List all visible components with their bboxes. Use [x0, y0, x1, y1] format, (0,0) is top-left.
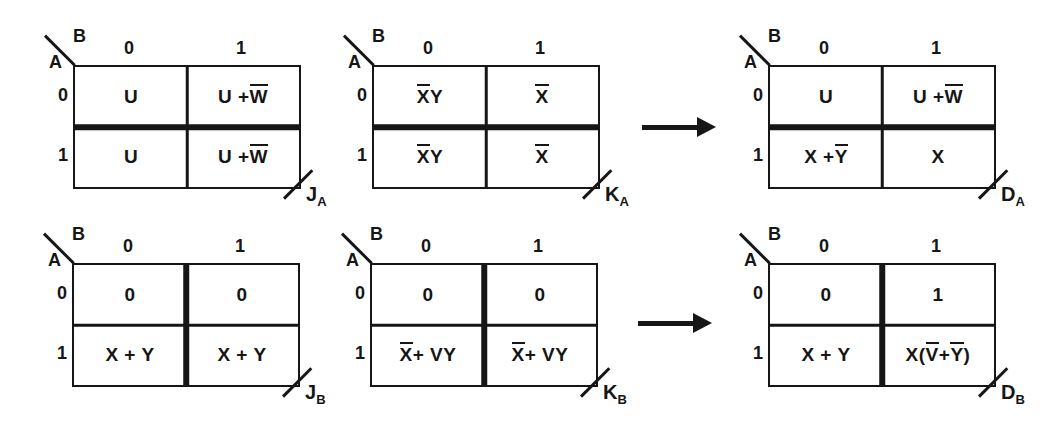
kmap-grid: U U + W U U + W	[73, 65, 301, 189]
row-label-0: 0	[344, 263, 365, 323]
output-subscript: B	[1015, 392, 1024, 407]
col-header-1: 1	[880, 236, 992, 257]
arrow-right-icon	[642, 117, 716, 137]
col-header-1: 1	[484, 38, 596, 59]
kmap-grid: XY X XY X	[372, 65, 600, 189]
row-label-1: 1	[346, 125, 367, 185]
row-label-1: 1	[46, 323, 67, 383]
column-headers: 0 1	[768, 236, 992, 257]
output-subscript: A	[619, 194, 628, 209]
row-label-1: 1	[742, 125, 763, 185]
col-header-0: 0	[73, 38, 185, 59]
output-letter: J	[306, 183, 317, 205]
cell-a0-b0: 0	[770, 265, 882, 325]
cell-a1-b0: XY	[374, 127, 486, 187]
output-letter: K	[603, 381, 617, 403]
col-header-1: 1	[185, 38, 297, 59]
column-headers: 0 1	[370, 236, 594, 257]
cell-a1-b1: X(V + Y)	[882, 325, 994, 385]
kmap-kb: B A 0 1 0 1 0 0 X + VY X + VY KB	[344, 223, 666, 428]
cell-a0-b1: U + W	[882, 67, 994, 127]
row-label-0: 0	[742, 65, 763, 125]
col-header-1: 1	[880, 38, 992, 59]
cell-a0-b0: U	[770, 67, 882, 127]
row-labels: 0 1	[47, 65, 68, 185]
cell-a1-b0: X + Y	[770, 325, 882, 385]
col-header-1: 1	[184, 236, 296, 257]
output-letter: K	[605, 183, 619, 205]
cell-a1-b1: U + W	[187, 127, 299, 187]
output-label: JB	[305, 381, 326, 407]
cell-a0-b1: 0	[186, 265, 298, 325]
kmap-figure: B A 0 1 0 1 U U + W U U + W JA B A 0 1	[0, 0, 1064, 435]
row-label-0: 0	[47, 65, 68, 125]
arrow-shaft	[638, 321, 694, 326]
col-header-0: 0	[370, 236, 482, 257]
row-label-1: 1	[344, 323, 365, 383]
cell-a1-b0: X + Y	[770, 127, 882, 187]
arrow-right-icon	[638, 313, 712, 333]
kmap-ka: B A 0 1 0 1 XY X XY X KA	[346, 25, 668, 230]
output-label: KB	[603, 381, 627, 407]
kmap-grid: U U + W X + Y X	[768, 65, 996, 189]
col-header-0: 0	[768, 38, 880, 59]
cell-a1-b0: X + Y	[74, 325, 186, 385]
cell-a1-b1: X	[486, 127, 598, 187]
output-label: KA	[605, 183, 629, 209]
cell-a0-b0: 0	[372, 265, 484, 325]
col-header-0: 0	[768, 236, 880, 257]
column-headers: 0 1	[372, 38, 596, 59]
row-labels: 0 1	[742, 263, 763, 383]
cell-a0-b1: X	[486, 67, 598, 127]
cell-a0-b1: 1	[882, 265, 994, 325]
row-divider	[371, 324, 597, 327]
arrow-head	[693, 313, 712, 333]
col-header-0: 0	[72, 236, 184, 257]
output-letter: D	[1001, 381, 1015, 403]
row-labels: 0 1	[346, 65, 367, 185]
kmap-grid: 0 1 X + Y X(V + Y)	[768, 263, 996, 387]
cell-a1-b1: X + VY	[484, 325, 596, 385]
cell-a0-b1: U + W	[187, 67, 299, 127]
output-subscript: B	[617, 392, 626, 407]
row-label-0: 0	[46, 263, 67, 323]
col-header-1: 1	[482, 236, 594, 257]
output-label: DB	[1001, 381, 1025, 407]
output-label: DA	[1001, 183, 1025, 209]
row-label-1: 1	[742, 323, 763, 383]
output-letter: J	[305, 381, 316, 403]
row-divider-thick	[74, 124, 300, 130]
row-divider	[769, 324, 995, 327]
col-header-0: 0	[372, 38, 484, 59]
cell-a0-b0: XY	[374, 67, 486, 127]
row-label-0: 0	[742, 263, 763, 323]
kmap-grid: 0 0 X + VY X + VY	[370, 263, 598, 387]
row-divider-thick	[373, 124, 599, 130]
arrow-head	[697, 117, 716, 137]
column-headers: 0 1	[72, 236, 296, 257]
row-labels: 0 1	[742, 65, 763, 185]
row-divider	[73, 324, 299, 327]
row-divider-thick	[769, 124, 995, 130]
cell-a1-b1: X	[882, 127, 994, 187]
cell-a1-b1: X + Y	[186, 325, 298, 385]
arrow-shaft	[642, 125, 698, 130]
output-subscript: A	[317, 194, 326, 209]
output-letter: D	[1001, 183, 1015, 205]
cell-a0-b1: 0	[484, 265, 596, 325]
kmap-db: B A 0 1 0 1 0 1 X + Y X(V + Y) DB	[742, 223, 1064, 428]
row-labels: 0 1	[344, 263, 365, 383]
row-label-0: 0	[346, 65, 367, 125]
row-labels: 0 1	[46, 263, 67, 383]
column-headers: 0 1	[768, 38, 992, 59]
kmap-da: B A 0 1 0 1 U U + W X + Y X DA	[742, 25, 1064, 230]
kmap-grid: 0 0 X + Y X + Y	[72, 263, 300, 387]
output-subscript: A	[1015, 194, 1024, 209]
kmap-jb: B A 0 1 0 1 0 0 X + Y X + Y JB	[46, 223, 368, 428]
output-label: JA	[306, 183, 327, 209]
cell-a1-b0: U	[75, 127, 187, 187]
output-subscript: B	[316, 392, 325, 407]
cell-a0-b0: 0	[74, 265, 186, 325]
cell-a0-b0: U	[75, 67, 187, 127]
column-headers: 0 1	[73, 38, 297, 59]
